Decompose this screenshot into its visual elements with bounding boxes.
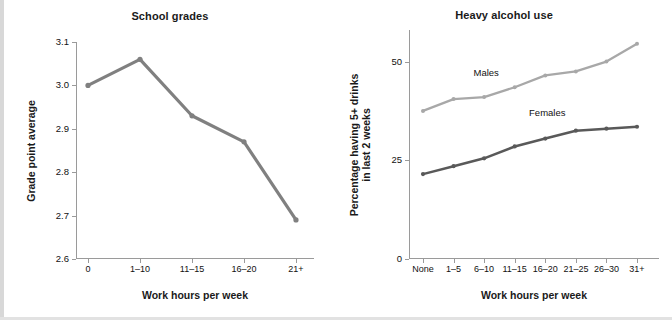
figure-container: School grades Grade point average Work h… — [0, 0, 672, 320]
panel-school-grades: School grades Grade point average Work h… — [4, 0, 336, 320]
y-tick-mark — [72, 42, 76, 43]
x-tick-label: 6–10 — [474, 265, 494, 274]
panel-right-y-axis-title-line1: Percentage having 5+ drinks — [348, 57, 360, 233]
panel-right-plot-area: Males Females 02550None1–56–1011–1516–20… — [409, 30, 659, 259]
panel-left-x-axis-title: Work hours per week — [76, 289, 314, 301]
y-tick-label: 3.1 — [56, 37, 69, 47]
panel-left-plot-area: 2.62.72.82.93.03.101–1011–1516–2021+ — [76, 42, 314, 259]
x-tick-label: 21+ — [288, 265, 303, 274]
panel-right-series-group — [409, 30, 659, 259]
panel-right-x-axis-title: Work hours per week — [409, 289, 659, 301]
x-tick-label: 1–5 — [446, 265, 461, 274]
x-tick-mark — [606, 259, 607, 263]
x-tick-mark — [454, 259, 455, 263]
panel-left-title: School grades — [4, 10, 336, 22]
x-tick-mark — [484, 259, 485, 263]
x-tick-mark — [88, 259, 89, 263]
y-tick-mark — [72, 172, 76, 173]
y-tick-mark — [72, 259, 76, 260]
y-tick-mark — [72, 129, 76, 130]
y-tick-label: 2.6 — [56, 254, 69, 264]
x-tick-mark — [296, 259, 297, 263]
y-tick-label: 2.8 — [56, 167, 69, 177]
y-tick-label: 3.0 — [56, 81, 69, 91]
x-tick-mark — [637, 259, 638, 263]
y-tick-label: 2.7 — [56, 211, 69, 221]
x-tick-mark — [545, 259, 546, 263]
y-tick-mark — [405, 62, 409, 63]
y-tick-label: 50 — [391, 57, 402, 67]
x-tick-mark — [244, 259, 245, 263]
x-tick-mark — [515, 259, 516, 263]
x-tick-mark — [140, 259, 141, 263]
y-tick-label: 2.9 — [56, 124, 69, 134]
x-tick-label: 11–15 — [180, 265, 204, 274]
y-tick-mark — [405, 160, 409, 161]
y-tick-label: 0 — [397, 254, 402, 264]
x-tick-mark — [192, 259, 193, 263]
x-tick-label: 26–30 — [594, 265, 619, 274]
panel-right-y-axis-title: Percentage having 5+ drinks in last 2 we… — [348, 57, 372, 233]
y-tick-mark — [405, 259, 409, 260]
panel-left-series-gpa — [76, 42, 314, 259]
x-tick-label: 16–20 — [231, 265, 256, 274]
x-tick-mark — [423, 259, 424, 263]
x-tick-mark — [576, 259, 577, 263]
series-label-females: Females — [529, 108, 565, 118]
series-label-males: Males — [473, 68, 498, 78]
y-tick-label: 25 — [391, 156, 402, 166]
x-tick-label: None — [412, 265, 434, 274]
x-tick-label: 21–25 — [563, 265, 588, 274]
panel-right-y-axis-title-line2: in last 2 weeks — [360, 57, 372, 233]
y-tick-mark — [72, 216, 76, 217]
panel-left-y-axis-title: Grade point average — [25, 76, 37, 226]
x-tick-label: 1–10 — [130, 265, 150, 274]
x-tick-label: 16–20 — [533, 265, 558, 274]
x-tick-label: 11–15 — [503, 265, 527, 274]
x-tick-label: 31+ — [629, 265, 644, 274]
x-tick-label: 0 — [85, 265, 90, 274]
y-tick-mark — [72, 85, 76, 86]
panel-heavy-alcohol-use: Heavy alcohol use Percentage having 5+ d… — [336, 0, 672, 320]
panel-right-title: Heavy alcohol use — [336, 9, 672, 21]
